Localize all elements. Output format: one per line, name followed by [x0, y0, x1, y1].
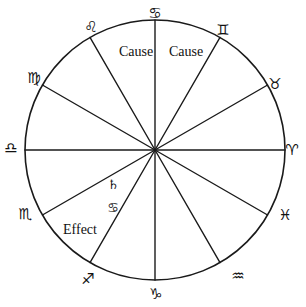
spoke-pisces [155, 150, 268, 215]
spoke-scorpio [42, 150, 155, 215]
spoke-taurus [155, 85, 268, 150]
spoke-leo [90, 37, 155, 150]
spoke-sagittarius [90, 150, 155, 263]
zodiac-wheel-diagram: ♋ ♊ ♉ ♈ ♓ ♒ ♑ ♐ ♏ ♎ ♍ ♌ ♄ ♋ Cause Cause … [0, 0, 306, 307]
spoke-group [25, 20, 285, 280]
spoke-virgo [42, 85, 155, 150]
wheel-canvas [0, 0, 306, 307]
spoke-gemini [155, 37, 220, 150]
spoke-aquarius [155, 150, 220, 263]
